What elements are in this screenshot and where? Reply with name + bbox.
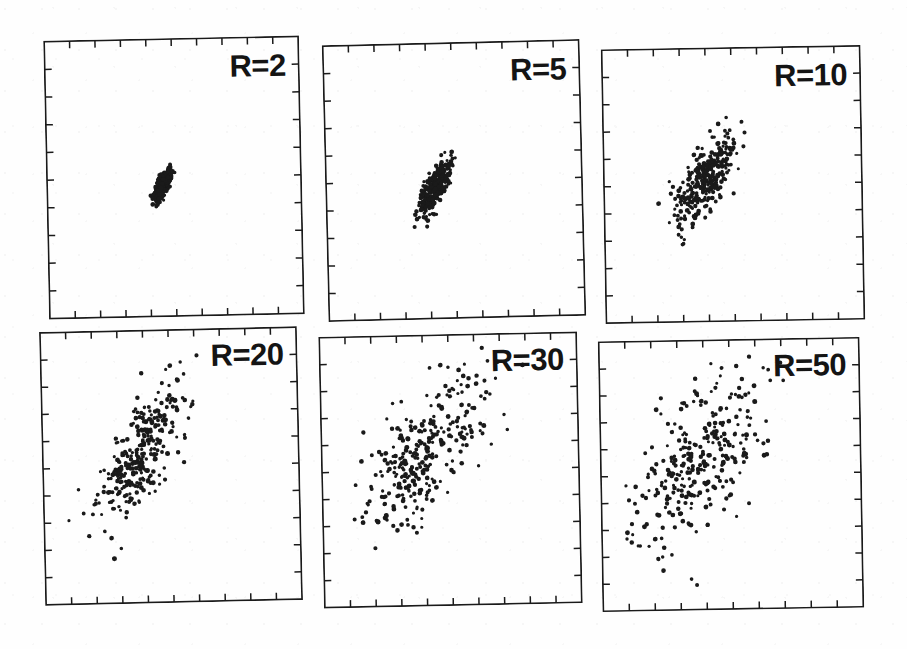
- scatter-point: [724, 479, 728, 483]
- scatter-point: [679, 407, 684, 412]
- scatter-point: [91, 512, 95, 516]
- scatter-point: [373, 546, 377, 550]
- scatter-point: [443, 384, 448, 389]
- scatter-point: [713, 457, 717, 461]
- scatter-point: [699, 403, 703, 407]
- scatter-point: [439, 153, 443, 157]
- scatter-point: [724, 116, 728, 120]
- scatter-point: [695, 146, 700, 151]
- scatter-point: [635, 510, 640, 515]
- scatter-point: [633, 485, 638, 490]
- scatter-point: [680, 493, 685, 498]
- scatter-point: [728, 396, 732, 400]
- scatter-point: [456, 368, 461, 373]
- scatter-point: [474, 373, 479, 378]
- scatter-point: [413, 225, 417, 229]
- scatter-point: [677, 438, 682, 443]
- scatter-point: [656, 201, 661, 206]
- scatter-point: [158, 474, 162, 478]
- scatter-point: [677, 500, 681, 504]
- scatter-panel-5: R=5: [322, 39, 587, 322]
- scatter-point: [690, 577, 694, 581]
- scatter-point: [647, 545, 650, 548]
- scatter-point: [734, 364, 739, 369]
- scatter-point: [673, 422, 677, 426]
- scatter-point: [687, 466, 691, 470]
- scatter-point: [671, 185, 675, 189]
- scatter-point: [460, 390, 464, 394]
- scatter-point: [464, 443, 469, 448]
- scatter-point: [747, 501, 751, 505]
- scatter-point: [479, 394, 483, 398]
- scatter-point: [745, 456, 749, 460]
- scatter-point: [183, 436, 187, 440]
- scatter-point: [136, 433, 141, 438]
- scatter-point: [175, 435, 178, 438]
- scatter-point: [654, 407, 659, 412]
- panel-label-10: R=10: [774, 59, 848, 91]
- scatter-point: [678, 425, 683, 430]
- scatter-point: [720, 468, 725, 473]
- scatter-point: [693, 376, 698, 381]
- scatter-point: [160, 450, 164, 454]
- scatter-point: [67, 519, 70, 522]
- figure-canvas: R=2R=5R=10R=20R=30R=50: [0, 0, 907, 649]
- scatter-point: [665, 501, 669, 505]
- scatter-point: [716, 122, 721, 127]
- scatter-point: [161, 444, 165, 448]
- scatter-point: [480, 346, 484, 350]
- scatter-point: [711, 441, 714, 444]
- scatter-point: [117, 505, 121, 509]
- scatter-point: [408, 450, 412, 454]
- scatter-point: [654, 462, 658, 466]
- scatter-point: [467, 403, 471, 407]
- scatter-point: [456, 379, 459, 382]
- scatter-point: [100, 513, 103, 516]
- scatter-point: [686, 166, 690, 170]
- scatter-point: [411, 525, 416, 530]
- scatter-point: [370, 453, 374, 457]
- scatter-point: [631, 533, 634, 536]
- scatter-point: [446, 414, 451, 419]
- scatter-point: [178, 360, 182, 364]
- scatter-point: [101, 490, 106, 495]
- scatter-point: [395, 528, 400, 533]
- scatter-point: [409, 494, 413, 498]
- scatter-point: [124, 516, 128, 520]
- scatter-point: [673, 525, 677, 529]
- scatter-point: [124, 510, 129, 515]
- scatter-point: [94, 498, 97, 501]
- scatter-point: [164, 368, 167, 371]
- scatter-point: [379, 470, 382, 473]
- panel-label-5: R=5: [510, 53, 567, 85]
- scatter-point: [681, 181, 685, 185]
- scatter-point: [390, 426, 395, 431]
- scatter-point: [387, 491, 391, 495]
- scatter-point: [477, 464, 480, 467]
- scatter-point: [741, 144, 745, 148]
- scatter-point: [707, 497, 711, 501]
- scatter-point: [714, 200, 718, 204]
- scatter-point: [99, 470, 102, 473]
- scatter-point: [446, 365, 450, 369]
- scatter-point: [625, 530, 630, 535]
- scatter-point: [461, 374, 466, 379]
- scatter-point: [722, 145, 725, 148]
- scatter-point: [742, 130, 746, 134]
- scatter-point: [182, 460, 186, 464]
- scatter-point: [402, 479, 406, 483]
- scatter-point: [668, 221, 671, 224]
- scatter-point: [731, 137, 735, 141]
- scatter-point: [713, 421, 718, 426]
- scatter-point: [486, 359, 490, 363]
- scatter-point: [474, 381, 479, 386]
- panel-label-20: R=20: [210, 338, 284, 371]
- scatter-point: [483, 397, 487, 401]
- scatter-point: [171, 405, 175, 409]
- scatter-point: [725, 407, 729, 411]
- scatter-point: [82, 511, 86, 515]
- scatter-point: [720, 435, 723, 438]
- scatter-point: [736, 423, 739, 426]
- scatter-point: [761, 366, 765, 370]
- scatter-point: [113, 455, 116, 458]
